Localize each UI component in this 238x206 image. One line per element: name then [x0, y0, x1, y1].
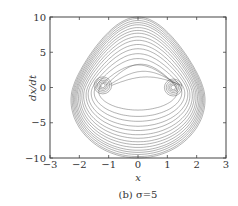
x-tick-label: −2 [72, 159, 87, 170]
x-axis-label: x [135, 172, 141, 183]
x-tick-label: 3 [223, 159, 229, 170]
trajectory-transition [106, 64, 176, 85]
trajectory-orbit [75, 23, 202, 153]
x-tick-labels: −3−2−10123 [43, 159, 230, 170]
x-tick-label: −1 [101, 159, 116, 170]
trajectory-orbit [72, 18, 204, 156]
plot-area [71, 17, 205, 158]
x-tick-label: 1 [164, 159, 170, 170]
y-tick-label: 5 [40, 47, 46, 58]
spiral-focus-loop [96, 79, 110, 93]
chart-caption: (b) σ=5 [119, 189, 158, 200]
y-tick-label: −10 [25, 153, 46, 164]
x-tick-label: 0 [135, 159, 141, 170]
y-tick-label: −5 [31, 117, 46, 128]
phase-portrait-chart: −3−2−10123 −10−50510 x dx/dt (b) σ=5 [0, 0, 238, 206]
y-tick-label: 0 [40, 82, 46, 93]
x-tick-label: 2 [193, 159, 199, 170]
y-tick-label: 10 [33, 12, 46, 23]
spiral-focus-loop [171, 85, 176, 90]
y-axis-label: dx/dt [27, 74, 38, 101]
